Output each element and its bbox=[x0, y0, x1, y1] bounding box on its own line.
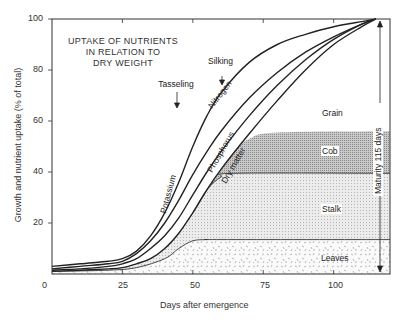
y-tick-20: 20 bbox=[33, 217, 43, 227]
x-axis-title: Days after emergence bbox=[160, 300, 249, 310]
x-tick-25: 25 bbox=[118, 280, 128, 290]
chart-canvas bbox=[0, 0, 406, 320]
y-tick-40: 40 bbox=[33, 166, 43, 176]
label-silking: Silking bbox=[208, 56, 233, 66]
chart-title-line-2: IN RELATION TO bbox=[62, 47, 184, 58]
x-tick-75: 75 bbox=[260, 280, 270, 290]
label-leaves: Leaves bbox=[321, 253, 348, 263]
label-maturity: Maturity 115 days bbox=[373, 126, 383, 196]
label-grain: Grain bbox=[322, 108, 343, 118]
x-tick-100: 100 bbox=[328, 280, 343, 290]
x-tick-0: 0 bbox=[42, 280, 47, 290]
y-tick-100: 100 bbox=[28, 13, 43, 23]
y-tick-60: 60 bbox=[33, 115, 43, 125]
label-stalk: Stalk bbox=[321, 204, 342, 214]
y-tick-80: 80 bbox=[33, 64, 43, 74]
chart-title-line-1: UPTAKE OF NUTRIENTS bbox=[62, 36, 184, 47]
label-tasseling: Tasseling bbox=[158, 79, 193, 89]
chart-title-line-3: DRY WEIGHT bbox=[62, 58, 184, 69]
label-cob: Cob bbox=[321, 146, 339, 156]
chart-title: UPTAKE OF NUTRIENTS IN RELATION TO DRY W… bbox=[62, 36, 184, 69]
tasseling-arrow bbox=[175, 92, 180, 108]
y-axis-title: Growth and nutrient uptake (% of total) bbox=[13, 65, 23, 225]
x-tick-50: 50 bbox=[190, 280, 200, 290]
